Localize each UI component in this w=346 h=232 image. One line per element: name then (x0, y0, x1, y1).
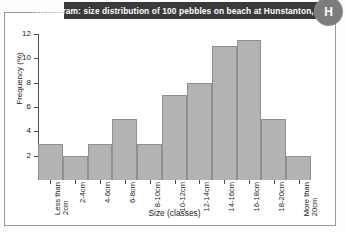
chart-title-banner: Histogram: size distribution of 100 pebb… (64, 2, 318, 19)
screenshot-root: Histogram: size distribution of 100 pebb… (0, 0, 346, 232)
histogram-bar (137, 144, 162, 181)
histogram-bar (112, 119, 137, 180)
histogram-bar (261, 119, 286, 180)
corner-badge-icon: H (315, 0, 342, 25)
x-axis-title: Size (classes) (38, 208, 311, 218)
x-axis-tick-label: 4-6cm (104, 182, 112, 203)
y-axis-tick-label: 10 (22, 53, 31, 62)
histogram-bar (212, 46, 237, 180)
plot-area: 24681012 (38, 34, 311, 180)
histogram-bar (187, 83, 212, 180)
chart-title-text: Histogram: size distribution of 100 pebb… (36, 6, 346, 16)
y-axis-tick: 10 (34, 58, 38, 59)
histogram-bar (237, 40, 262, 180)
histogram-bar (38, 144, 63, 181)
x-axis-tick-labels: Less than 2cm2-4cm4-6cm6-8cm8-10cm10-12c… (38, 182, 311, 226)
histogram-bar (162, 95, 187, 180)
corner-badge-letter: H (324, 5, 333, 19)
histogram-bar (286, 156, 311, 180)
y-axis-tick: 12 (34, 34, 38, 35)
y-axis-tick: 6 (34, 107, 38, 108)
y-axis-tick: 4 (34, 131, 38, 132)
x-axis-tick-label: 8-10cm (154, 182, 162, 207)
x-axis-tick-label: 6-8cm (129, 182, 137, 203)
y-axis-tick-label: 6 (27, 102, 31, 111)
y-axis-tick-label: 4 (27, 126, 31, 135)
histogram-bar (88, 144, 113, 181)
y-axis-tick-label: 8 (27, 78, 31, 87)
y-axis-tick-label: 2 (27, 151, 31, 160)
x-axis-tick-label: 2-4cm (79, 182, 87, 203)
y-axis-tick: 2 (34, 156, 38, 157)
histogram-chart: Frequency (%) 24681012 Less than 2cm2-4c… (4, 12, 336, 226)
bar-series (38, 34, 311, 180)
y-axis-tick-label: 12 (22, 29, 31, 38)
histogram-bar (63, 156, 88, 180)
y-axis-tick: 8 (34, 83, 38, 84)
